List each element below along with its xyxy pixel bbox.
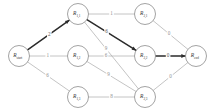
- edge-weight-label: 0: [166, 52, 171, 59]
- edge-weight-text: 0: [167, 52, 170, 58]
- edge-weight-label: 1: [109, 10, 114, 17]
- edge-weight-text: 1: [110, 10, 113, 16]
- edge-weight-text: 6: [105, 28, 108, 34]
- edge-weight-label: 8: [109, 93, 114, 100]
- edge-weight-label: 2: [47, 31, 52, 38]
- edge-weight-label: 6: [104, 28, 109, 35]
- graph-figure: 216169698000 RstartR1,1R1,2R1,3R2,1R2,2R…: [0, 0, 214, 112]
- node-label-subscript: start: [17, 56, 23, 60]
- edge-weight-label: 6: [45, 72, 50, 79]
- edge-weight-label: 1: [45, 52, 50, 59]
- graph-node-r23[interactable]: R2,3: [135, 87, 156, 108]
- edge-weight-text: 0: [168, 30, 171, 36]
- edge-weight-label: 9: [106, 71, 111, 78]
- edge-weight-text: 6: [105, 52, 108, 58]
- edge-weight-text: 1: [46, 52, 49, 58]
- graph-node-r21[interactable]: R2,1: [135, 4, 156, 25]
- graph-node-end[interactable]: Rend: [186, 46, 207, 67]
- graph-node-r12[interactable]: R1,2: [68, 46, 89, 67]
- edge-weight-text: 9: [105, 45, 108, 51]
- graph-node-start[interactable]: Rstart: [9, 46, 30, 67]
- graph-edge: [85, 22, 139, 89]
- graph-node-r11[interactable]: R1,1: [68, 4, 89, 25]
- edge-weight-label: 0: [168, 73, 173, 80]
- edge-weight-text: 9: [107, 71, 110, 77]
- graph-edge: [87, 20, 136, 51]
- edge-weight-text: 6: [46, 72, 49, 78]
- graph-node-r22[interactable]: R2,2: [135, 46, 156, 67]
- edge-weight-label: 9: [104, 45, 109, 52]
- edge-weight-label: 6: [104, 52, 109, 59]
- graph-node-r13[interactable]: R1,3: [68, 87, 89, 108]
- edge-arrowhead: [181, 54, 185, 58]
- edge-weight-text: 0: [169, 73, 172, 79]
- graph-canvas: 216169698000 RstartR1,1R1,2R1,3R2,1R2,2R…: [0, 0, 214, 112]
- node-label-subscript: end: [194, 56, 199, 60]
- edge-weight-text: 8: [110, 93, 113, 99]
- edge-weight-label: 0: [167, 30, 172, 37]
- edge-weight-text: 2: [48, 31, 51, 37]
